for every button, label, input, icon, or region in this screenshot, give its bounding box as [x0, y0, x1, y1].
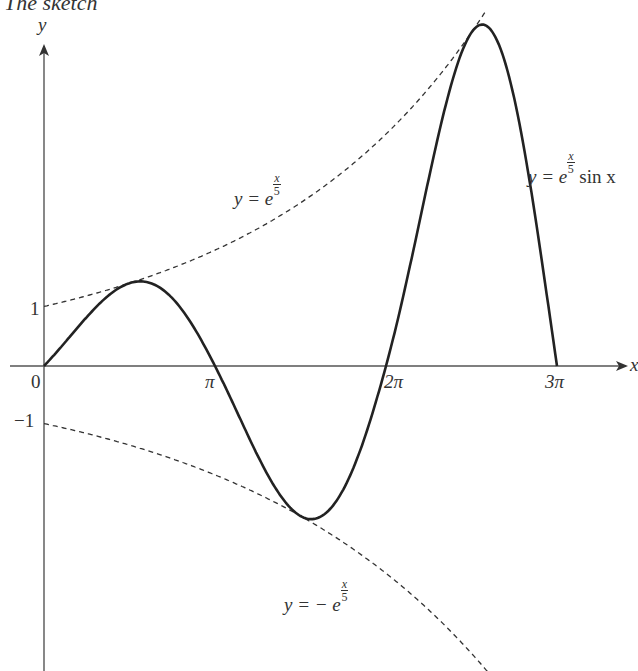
lower-envelope-label: y = − ex5 [284, 578, 348, 616]
lower-envelope [44, 424, 501, 671]
x-axis-label: x [630, 354, 638, 376]
y-axis-label: y [38, 14, 46, 36]
curve-label: y = ex5 sin x [528, 150, 616, 188]
tick-3pi: 3π [545, 371, 564, 393]
plot-area [0, 0, 638, 671]
tick-1: 1 [30, 298, 40, 320]
main-curve [44, 25, 557, 519]
upper-envelope-label: y = ex5 [234, 172, 281, 210]
upper-envelope [44, 13, 485, 307]
origin-label: 0 [31, 371, 41, 393]
tick-pi: π [205, 371, 215, 393]
tick-minus1: −1 [14, 410, 34, 432]
tick-2pi: 2π [384, 371, 403, 393]
